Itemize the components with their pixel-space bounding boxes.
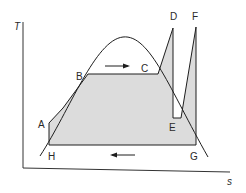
point-label-a: A — [38, 119, 45, 130]
x-axis-label: s — [227, 176, 232, 187]
ts-diagram: T s A B C D E F G H — [0, 0, 246, 193]
point-label-d: D — [170, 11, 177, 22]
y-axis-label: T — [14, 21, 21, 32]
point-label-b: B — [76, 71, 83, 82]
x-axis — [23, 168, 230, 172]
point-label-g: G — [190, 151, 198, 162]
arrow-left-icon — [110, 153, 135, 158]
point-label-h: H — [48, 151, 55, 162]
point-label-f: F — [192, 11, 198, 22]
point-label-c: C — [141, 63, 148, 74]
arrow-right-icon — [105, 64, 130, 69]
point-label-e: E — [169, 122, 176, 133]
